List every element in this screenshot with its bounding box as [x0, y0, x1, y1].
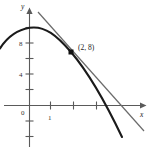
y-axis-arrowhead	[26, 8, 32, 15]
tangent-line	[38, 12, 144, 131]
y-axis-label: y	[20, 2, 25, 11]
y-tick-label-4: 4	[19, 71, 23, 79]
point-label: (2, 8)	[78, 43, 95, 52]
point-marker	[69, 50, 74, 55]
x-tick-label-1: 1	[48, 114, 52, 122]
graph-figure: y x 0 4 8 1 (2, 8)	[0, 0, 149, 153]
y-tick-label-8: 8	[19, 40, 23, 48]
origin-label: 0	[21, 109, 25, 117]
x-axis	[4, 102, 147, 110]
coordinate-plot: y x 0 4 8 1 (2, 8)	[0, 0, 149, 153]
x-axis-label: x	[139, 110, 144, 119]
x-axis-arrowhead	[140, 102, 147, 108]
